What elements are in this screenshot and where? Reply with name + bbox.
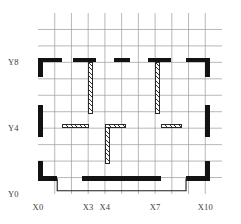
floor-plan-root: X0X3X4X7X10 Y8Y4Y0 bbox=[0, 0, 241, 224]
x-axis-label-x10: X10 bbox=[198, 203, 213, 212]
x-axis-label-x7: X7 bbox=[150, 203, 161, 212]
y-axis-label-y8: Y8 bbox=[8, 58, 19, 67]
plan-drawing-area bbox=[38, 13, 222, 194]
x-axis-label-x3: X3 bbox=[83, 203, 94, 212]
x-axis-label-x4: X4 bbox=[100, 203, 111, 212]
y-axis-label-y4: Y4 bbox=[8, 124, 19, 133]
y-axis-label-y0: Y0 bbox=[8, 190, 19, 199]
x-axis-label-x0: X0 bbox=[33, 203, 44, 212]
slab-outline bbox=[38, 13, 222, 194]
